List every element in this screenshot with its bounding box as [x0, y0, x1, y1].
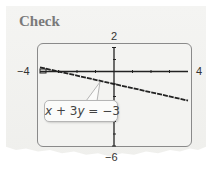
ymin-label: −6 — [105, 151, 118, 163]
equation-callout: x + 3y = −3 — [44, 100, 118, 122]
xmin-label: −4 — [17, 65, 30, 77]
callout-op2: = −3 — [85, 104, 120, 118]
ymax-label: 2 — [111, 30, 117, 42]
callout-op1: + 3 — [52, 104, 77, 118]
callout-pointer — [86, 82, 100, 101]
callout-var-y: y — [77, 104, 84, 118]
xmax-label: 4 — [196, 65, 202, 77]
